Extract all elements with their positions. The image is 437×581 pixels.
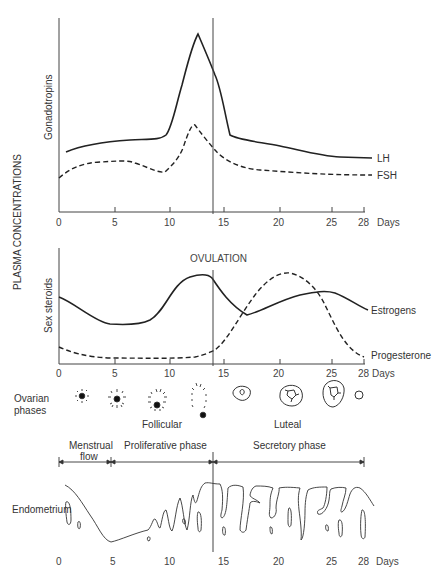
- svg-text:0: 0: [56, 217, 62, 228]
- svg-text:0: 0: [56, 556, 62, 567]
- svg-text:20: 20: [273, 368, 285, 379]
- luteal-label: Luteal: [274, 419, 301, 430]
- corpus-luteum-early-icon: [233, 386, 250, 400]
- svg-text:25: 25: [326, 556, 338, 567]
- days-label: Days: [372, 368, 395, 379]
- primary-follicle-icon: [108, 389, 126, 408]
- menstrual-label-line1: Menstrual: [69, 440, 113, 451]
- secondary-follicle-icon: [148, 389, 167, 411]
- ovarian-label-line1: Ovarian: [14, 393, 49, 404]
- svg-text:15: 15: [218, 556, 230, 567]
- svg-text:20: 20: [273, 217, 285, 228]
- x-tick-labels-bottom: 0 5 10 15 20 25 28 Days: [56, 556, 399, 567]
- uterine-phases: Menstrual flow Proliferative phase Secre…: [12, 440, 399, 567]
- svg-text:10: 10: [164, 217, 176, 228]
- x-tick-labels: 0 5 10 15 20 25 28 Days: [56, 217, 400, 228]
- svg-text:25: 25: [326, 217, 338, 228]
- svg-text:5: 5: [112, 368, 118, 379]
- svg-text:20: 20: [273, 556, 285, 567]
- follicular-label: Follicular: [142, 419, 183, 430]
- ovulating-follicle-icon: [191, 383, 207, 418]
- svg-text:0: 0: [56, 368, 62, 379]
- estrogens-legend: Estrogens: [371, 305, 416, 316]
- lh-curve: [66, 34, 372, 158]
- endometrial-glands: [66, 502, 366, 541]
- svg-text:5: 5: [110, 556, 116, 567]
- x-tick-labels: 0 5 10 15 20 25 28 Days: [56, 368, 395, 379]
- fsh-curve: [59, 125, 372, 178]
- svg-text:28: 28: [358, 217, 370, 228]
- sex-steroids-chart: OVULATION Sex steroids 0 5 10 15 20 25 2…: [43, 248, 431, 379]
- days-label: Days: [377, 217, 400, 228]
- svg-text:5: 5: [112, 217, 118, 228]
- primordial-follicle-icon: [75, 389, 89, 403]
- progesterone-curve: [59, 273, 364, 358]
- menstrual-cycle-diagram: PLASMA CONCENTRATIONS Gonadotropins 0 5 …: [0, 0, 437, 581]
- endometrium-outline: [65, 483, 374, 542]
- svg-text:28: 28: [358, 556, 370, 567]
- corpus-luteum-mature-icon: [280, 385, 303, 406]
- x-ticks: [115, 359, 364, 364]
- svg-text:28: 28: [358, 368, 370, 379]
- ovarian-phases: Ovarian phases: [14, 381, 363, 430]
- secretory-label: Secretory phase: [253, 440, 326, 451]
- ovarian-label-line2: phases: [14, 405, 46, 416]
- gonadotropins-ylabel: Gonadotropins: [43, 74, 54, 140]
- menstrual-label-line2: flow: [80, 451, 99, 462]
- svg-text:25: 25: [326, 368, 338, 379]
- svg-text:15: 15: [218, 217, 230, 228]
- sex-steroids-ylabel: Sex steroids: [43, 278, 54, 333]
- proliferative-label: Proliferative phase: [124, 440, 207, 451]
- fsh-legend: FSH: [377, 170, 397, 181]
- svg-text:10: 10: [164, 556, 176, 567]
- phase-arrows: [59, 457, 364, 467]
- corpus-albicans-icon: [355, 391, 363, 399]
- svg-text:15: 15: [218, 368, 230, 379]
- endometrium-label: Endometrium: [12, 504, 71, 515]
- progesterone-legend: Progesterone: [371, 350, 431, 361]
- x-ticks: [115, 207, 364, 212]
- lh-legend: LH: [377, 153, 390, 164]
- svg-text:10: 10: [164, 368, 176, 379]
- corpus-luteum-late-icon: [323, 381, 344, 407]
- gonadotropins-chart: Gonadotropins 0 5 10 15 20 25 28 Days LH…: [43, 18, 400, 228]
- plasma-concentrations-label: PLASMA CONCENTRATIONS: [12, 154, 23, 290]
- ovulation-label: OVULATION: [190, 253, 247, 264]
- days-label: Days: [376, 556, 399, 567]
